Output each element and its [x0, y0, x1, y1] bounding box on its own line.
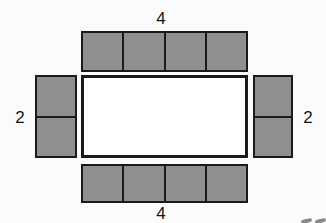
dimension-label-bottom: 4	[150, 205, 172, 222]
left-face-strip	[35, 75, 77, 158]
face-cell	[205, 166, 246, 201]
base-rectangle	[81, 75, 248, 158]
dimension-label-top: 4	[150, 10, 172, 27]
face-cell	[83, 166, 122, 201]
face-cell	[205, 33, 246, 70]
right-face-strip	[253, 75, 293, 158]
face-cell	[255, 116, 291, 157]
face-cell	[37, 77, 75, 116]
face-cell	[122, 166, 163, 201]
face-cell	[122, 33, 163, 70]
face-cell	[255, 77, 291, 116]
dimension-label-right: 2	[298, 109, 318, 126]
face-cell	[83, 33, 122, 70]
top-face-strip	[81, 31, 248, 72]
scan-artifact-stroke	[301, 218, 313, 223]
net-diagram: 4 2 2 4	[0, 0, 326, 223]
scan-artifact-mark	[300, 209, 326, 223]
scan-artifact-stroke	[315, 218, 326, 223]
face-cell	[164, 33, 205, 70]
dimension-label-left: 2	[10, 109, 30, 126]
bottom-face-strip	[81, 164, 248, 203]
face-cell	[164, 166, 205, 201]
face-cell	[37, 116, 75, 157]
